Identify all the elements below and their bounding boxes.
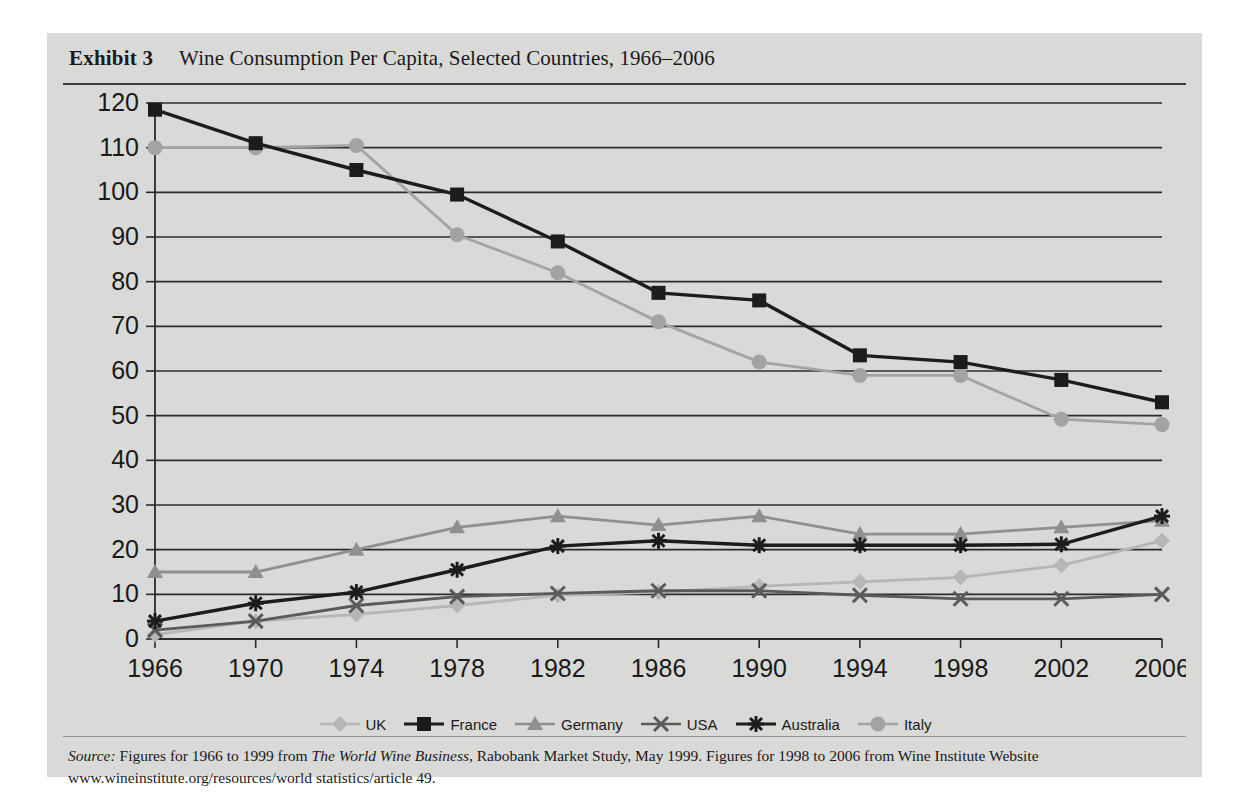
legend-label: France [450, 716, 497, 733]
exhibit-page: Exhibit 3 Wine Consumption Per Capita, S… [0, 0, 1247, 797]
x-tick-label: 1978 [429, 654, 485, 682]
y-tick-label: 10 [111, 579, 139, 607]
circle-marker [550, 265, 565, 280]
y-tick-label: 70 [111, 311, 139, 339]
exhibit-title: Wine Consumption Per Capita, Selected Co… [179, 46, 715, 71]
cross-marker [639, 715, 683, 733]
x-tick-label: 1994 [832, 654, 888, 682]
legend-item-germany[interactable]: Germany [513, 715, 623, 733]
source-note: Source: Figures for 1966 to 1999 from Th… [68, 745, 1186, 790]
series-line [155, 145, 1162, 424]
legend-label: Australia [782, 716, 840, 733]
circle-marker [953, 368, 968, 383]
y-tick-label: 120 [97, 89, 139, 116]
circle-marker [852, 368, 867, 383]
series-line [155, 110, 1162, 403]
footer-divider [63, 736, 1186, 737]
series-france [148, 103, 1169, 410]
star-marker [1154, 508, 1170, 524]
legend-item-italy[interactable]: Italy [856, 715, 932, 733]
y-tick-label: 0 [125, 624, 139, 652]
source-prefix: Source: [68, 747, 116, 764]
star-marker [348, 584, 364, 600]
star-marker [852, 537, 868, 553]
square-marker [249, 136, 263, 150]
legend-label: Germany [561, 716, 623, 733]
circle-marker [148, 140, 163, 155]
square-marker [752, 293, 766, 307]
square-marker [402, 715, 446, 733]
star-marker [449, 562, 465, 578]
x-tick-label: 1974 [329, 654, 385, 682]
y-tick-label: 20 [111, 535, 139, 563]
diamond-marker [1053, 557, 1069, 573]
series-usa [148, 584, 1169, 637]
series-italy [148, 138, 1170, 432]
x-tick-label: 1982 [530, 654, 586, 682]
circle-marker [1054, 412, 1069, 427]
square-marker [954, 355, 968, 369]
diamond-marker [953, 569, 969, 585]
x-tick-label: 2006 [1134, 654, 1186, 682]
star-marker [748, 716, 764, 732]
diamond-marker [348, 606, 364, 622]
circle-marker [870, 717, 885, 732]
diamond-marker [449, 598, 465, 614]
y-tick-label: 80 [111, 267, 139, 295]
triangle-marker [751, 508, 767, 522]
square-marker [450, 188, 464, 202]
y-tick-label: 100 [97, 177, 139, 205]
legend-item-france[interactable]: France [402, 715, 497, 733]
triangle-marker [550, 508, 566, 522]
square-marker [148, 103, 162, 117]
square-marker [1054, 373, 1068, 387]
triangle-marker [513, 715, 557, 733]
exhibit-panel: Exhibit 3 Wine Consumption Per Capita, S… [47, 33, 1202, 777]
diamond-marker [318, 715, 362, 733]
legend-item-australia[interactable]: Australia [734, 715, 840, 733]
star-marker [751, 537, 767, 553]
diamond-marker [852, 574, 868, 590]
square-marker [349, 163, 363, 177]
exhibit-header: Exhibit 3 Wine Consumption Per Capita, S… [47, 33, 1202, 83]
header-divider [63, 83, 1186, 85]
square-marker [551, 234, 565, 248]
star-marker [550, 538, 566, 554]
star-marker [248, 595, 264, 611]
y-tick-label: 60 [111, 356, 139, 384]
circle-marker [450, 227, 465, 242]
x-tick-label: 1966 [127, 654, 183, 682]
star-marker [953, 537, 969, 553]
circle-marker [752, 355, 767, 370]
chart-legend: UKFranceGermanyUSAAustraliaItaly [63, 709, 1186, 739]
square-marker [1155, 395, 1169, 409]
square-marker [652, 286, 666, 300]
y-tick-label: 50 [111, 401, 139, 429]
diamond-marker [332, 716, 348, 732]
exhibit-label: Exhibit 3 [69, 46, 153, 71]
y-tick-label: 110 [99, 133, 139, 161]
star-marker [651, 533, 667, 549]
legend-label: UK [366, 716, 387, 733]
circle-marker [349, 138, 364, 153]
legend-label: USA [687, 716, 718, 733]
x-tick-label: 1998 [933, 654, 989, 682]
chart-plot-area: 0102030405060708090100110120196619701974… [63, 89, 1186, 709]
x-tick-label: 1970 [228, 654, 284, 682]
y-tick-label: 40 [111, 445, 139, 473]
line-chart: 0102030405060708090100110120196619701974… [63, 89, 1186, 709]
y-tick-label: 90 [111, 222, 139, 250]
legend-item-uk[interactable]: UK [318, 715, 387, 733]
legend-label: Italy [904, 716, 932, 733]
circle-marker [856, 715, 900, 733]
legend-item-usa[interactable]: USA [639, 715, 718, 733]
diamond-marker [1154, 533, 1170, 549]
circle-marker [1155, 417, 1170, 432]
source-publication-title: The World Wine Business [312, 747, 469, 764]
x-tick-label: 1986 [631, 654, 687, 682]
star-marker [734, 715, 778, 733]
x-tick-label: 1990 [731, 654, 787, 682]
square-marker [853, 348, 867, 362]
y-tick-label: 30 [111, 490, 139, 518]
source-text-part-1: Figures for 1966 to 1999 from [116, 747, 312, 764]
